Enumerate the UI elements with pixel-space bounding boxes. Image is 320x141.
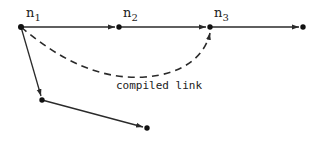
node-label-n2: n2 (123, 5, 138, 23)
node-n6 (144, 125, 149, 130)
edge-n5-n6 (42, 100, 143, 127)
node-n2 (116, 24, 121, 29)
node-n1 (18, 24, 24, 30)
edge-compiled-link (21, 27, 210, 77)
node-label-n3: n3 (214, 5, 229, 23)
edge-n1-n5 (21, 27, 41, 96)
compiled-link-label: compiled link (116, 79, 202, 92)
graph-diagram: n1 n2 n3 compiled link (0, 0, 320, 141)
node-n5 (39, 97, 44, 102)
node-label-n1: n1 (26, 5, 41, 23)
node-n3 (207, 24, 212, 29)
node-n4 (300, 24, 305, 29)
